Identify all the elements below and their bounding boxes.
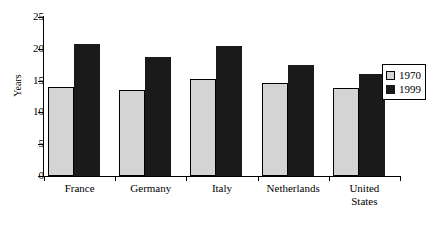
- bar-france-1970: [48, 87, 74, 176]
- x-axis-tick: [186, 176, 187, 181]
- bar-netherlands-1970: [262, 83, 288, 176]
- y-axis-tick-label: 10: [10, 106, 44, 117]
- y-axis-tick-label: 15: [10, 75, 44, 86]
- bar-group: [258, 17, 329, 176]
- x-axis-tick-label-line: France: [44, 182, 115, 195]
- bar-united-states-1970: [333, 88, 359, 176]
- bar-group: [44, 17, 115, 176]
- bar-chart: Years 0510152025 1970 1999 FranceGermany…: [0, 0, 442, 225]
- x-axis-tick-label-line: Italy: [186, 182, 257, 195]
- legend-item: 1970: [386, 68, 421, 82]
- bar-group: [115, 17, 186, 176]
- x-axis-tick-label: Italy: [186, 182, 257, 195]
- bar-netherlands-1999: [288, 65, 314, 176]
- x-axis-tick-label: France: [44, 182, 115, 195]
- x-axis-tick: [400, 176, 401, 181]
- bar-united-states-1999: [359, 74, 385, 176]
- chart-legend: 1970 1999: [382, 64, 426, 100]
- plot-area: [44, 17, 400, 176]
- x-axis-tick-label: Netherlands: [258, 182, 329, 195]
- bar-germany-1970: [119, 90, 145, 176]
- x-axis-tick: [329, 176, 330, 181]
- x-axis-tick: [44, 176, 45, 181]
- bar-germany-1999: [145, 57, 171, 176]
- bar-france-1999: [74, 44, 100, 176]
- y-axis: 0510152025: [0, 0, 44, 225]
- bar-group: [186, 17, 257, 176]
- x-axis-tick: [258, 176, 259, 181]
- x-axis-tick-label: Germany: [115, 182, 186, 195]
- legend-swatch-1970: [386, 71, 395, 80]
- legend-label-1999: 1999: [399, 84, 421, 95]
- bar-italy-1970: [190, 79, 216, 176]
- x-axis-tick-label-line: Germany: [115, 182, 186, 195]
- legend-item: 1999: [386, 82, 421, 96]
- y-axis-tick-label: 5: [10, 138, 44, 149]
- bar-italy-1999: [216, 46, 242, 176]
- x-axis-tick-label-line: United: [329, 182, 400, 195]
- x-axis-tick-label: UnitedStates: [329, 182, 400, 208]
- y-axis-tick-label: 20: [10, 43, 44, 54]
- x-axis-line: [43, 176, 401, 177]
- y-axis-tick-label: 25: [10, 11, 44, 22]
- x-axis-tick-label-line: States: [329, 195, 400, 208]
- y-axis-tick-label: 0: [10, 170, 44, 181]
- legend-label-1970: 1970: [399, 70, 421, 81]
- legend-swatch-1999: [386, 85, 395, 94]
- x-axis-tick-label-line: Netherlands: [258, 182, 329, 195]
- x-axis-tick: [115, 176, 116, 181]
